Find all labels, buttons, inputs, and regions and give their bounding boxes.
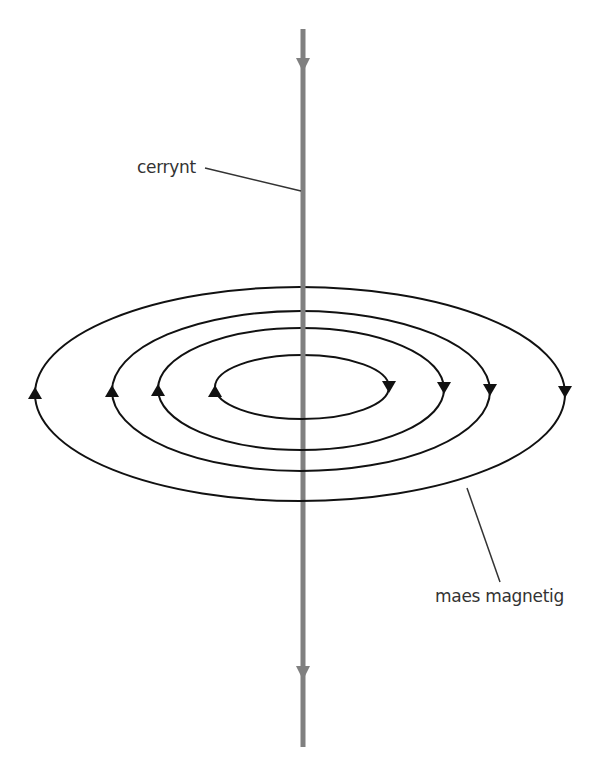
arrow-down-icon xyxy=(483,384,497,396)
arrow-down-icon xyxy=(382,381,396,393)
arrow-down-icon xyxy=(437,382,451,394)
arrow-down-icon xyxy=(558,386,572,398)
wire xyxy=(296,29,310,747)
magnetic-field-diagram xyxy=(0,0,608,780)
arrow-up-icon xyxy=(28,387,42,399)
leader-lines xyxy=(205,168,500,582)
current-arrow-bottom-icon xyxy=(296,666,310,680)
arrow-up-icon xyxy=(151,384,165,396)
leader-line-magnetic-field xyxy=(467,488,500,582)
field-lines-back xyxy=(35,287,565,394)
label-current: cerrynt xyxy=(137,157,196,177)
current-arrow-top-icon xyxy=(296,58,310,72)
field-lines-front xyxy=(35,387,565,501)
arrow-up-icon xyxy=(208,385,222,397)
arrow-up-icon xyxy=(105,385,119,397)
current-wire xyxy=(301,29,306,747)
label-magnetic-field: maes magnetig xyxy=(435,586,564,606)
leader-line-current xyxy=(205,168,301,191)
